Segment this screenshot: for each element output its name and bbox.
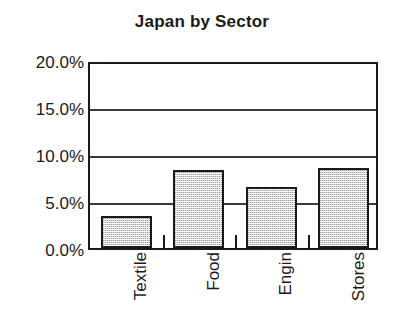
- category-tick-2: [235, 235, 237, 248]
- bar-stores[interactable]: [318, 168, 369, 248]
- gridline-15: [90, 109, 376, 111]
- x-axis: Textile Food Engin Stores: [88, 252, 378, 333]
- x-tick-text-engin: Engin: [277, 252, 294, 295]
- category-tick-1: [163, 235, 165, 248]
- category-tick-3: [308, 235, 310, 248]
- y-tick-label-20: 20.0%: [4, 54, 84, 71]
- y-tick-label-15: 15.0%: [4, 101, 84, 118]
- y-tick-label-0: 0.0%: [4, 242, 84, 259]
- gridline-10: [90, 156, 376, 158]
- bar-chart: Japan by Sector 20.0% 15.0% 10.0% 5.0% 0…: [0, 0, 404, 333]
- x-tick-label-engin: Engin: [277, 252, 294, 295]
- y-tick-label-5: 5.0%: [4, 195, 84, 212]
- x-tick-text-textile: Textile: [132, 252, 149, 300]
- bar-textile[interactable]: [101, 216, 152, 248]
- x-tick-text-stores: Stores: [350, 252, 367, 301]
- x-tick-text-food: Food: [205, 252, 222, 291]
- x-tick-label-food: Food: [205, 252, 222, 291]
- y-tick-label-10: 10.0%: [4, 148, 84, 165]
- x-tick-label-textile: Textile: [132, 252, 149, 300]
- x-tick-label-stores: Stores: [350, 252, 367, 301]
- bar-food[interactable]: [173, 170, 224, 248]
- plot-area: [88, 62, 378, 250]
- bar-engin[interactable]: [246, 187, 297, 248]
- y-axis: 20.0% 15.0% 10.0% 5.0% 0.0%: [0, 0, 84, 333]
